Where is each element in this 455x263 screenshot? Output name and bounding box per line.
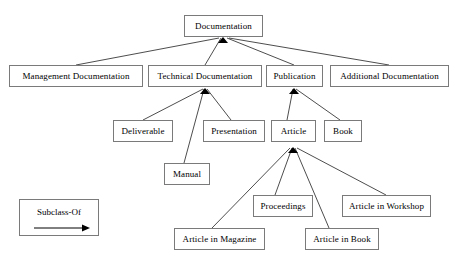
edge-workshop-to-article <box>297 148 386 195</box>
legend-label: Subclass-Of <box>20 207 98 217</box>
node-proceedings[interactable]: Proceedings <box>253 195 313 217</box>
node-label: Technical Documentation <box>158 72 253 81</box>
arrowhead-cluster-documentation <box>218 37 228 43</box>
arrowhead-cluster-technical <box>200 88 210 94</box>
node-manual[interactable]: Manual <box>164 163 210 185</box>
node-management-documentation[interactable]: Management Documentation <box>9 65 143 87</box>
legend-arrow-icon <box>20 222 100 234</box>
node-presentation[interactable]: Presentation <box>203 120 265 142</box>
node-label: Documentation <box>195 22 252 31</box>
node-label: Article in Book <box>313 235 371 244</box>
node-label: Manual <box>173 170 201 179</box>
node-label: Publication <box>273 72 315 81</box>
node-label: Proceedings <box>260 202 305 211</box>
node-label: Article in Magazine <box>183 235 257 244</box>
legend-subclass-of: Subclass-Of <box>19 199 99 236</box>
arrowhead-cluster-article <box>288 147 298 153</box>
edge-publication-to-documentation <box>227 38 294 65</box>
arrowhead-cluster-publication <box>289 88 299 94</box>
node-documentation[interactable]: Documentation <box>184 15 263 37</box>
edge-technical-to-documentation <box>205 38 221 65</box>
node-technical-documentation[interactable]: Technical Documentation <box>148 65 262 87</box>
edge-book-to-publication <box>296 89 340 120</box>
node-article-in-book[interactable]: Article in Book <box>305 228 379 250</box>
node-book[interactable]: Book <box>324 120 362 142</box>
edge-additional-to-documentation <box>229 38 389 65</box>
node-label: Management Documentation <box>22 72 129 81</box>
node-article[interactable]: Article <box>271 120 316 142</box>
edge-manual-to-technical <box>184 89 204 163</box>
node-article-in-workshop[interactable]: Article in Workshop <box>342 195 431 217</box>
node-label: Additional Documentation <box>340 72 439 81</box>
edge-article-to-publication <box>287 89 293 120</box>
node-label: Article in Workshop <box>349 202 424 211</box>
node-label: Deliverable <box>121 127 164 136</box>
node-publication[interactable]: Publication <box>266 65 323 87</box>
edge-management-to-documentation <box>76 38 219 65</box>
diagram-canvas: DocumentationManagement DocumentationTec… <box>0 0 455 263</box>
node-deliverable[interactable]: Deliverable <box>113 120 173 142</box>
node-article-in-magazine[interactable]: Article in Magazine <box>174 228 265 250</box>
node-label: Presentation <box>211 127 257 136</box>
edge-proceedings-to-article <box>275 148 292 195</box>
node-label: Book <box>333 127 353 136</box>
node-additional-documentation[interactable]: Additional Documentation <box>330 65 449 87</box>
edge-presentation-to-technical <box>207 89 231 120</box>
edge-deliverable-to-technical <box>143 89 203 120</box>
node-label: Article <box>281 127 307 136</box>
